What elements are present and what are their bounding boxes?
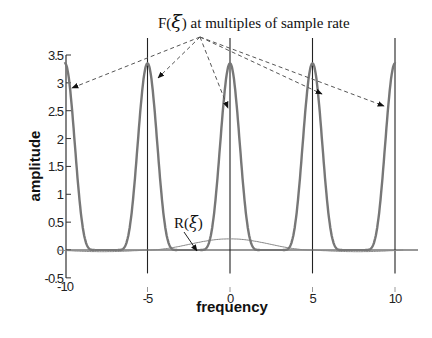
x-tick-label: -10: [57, 279, 74, 294]
y-tick-label: 2: [57, 132, 64, 147]
x-tick-label: 5: [309, 291, 316, 306]
r-xi-annotation: R(ξ): [174, 213, 203, 232]
f-xi-arrow: [200, 37, 228, 108]
f-replica-curve: [365, 63, 395, 250]
x-tick-label: 10: [389, 291, 402, 306]
y-tick-label: 2.5: [48, 104, 64, 119]
x-tick-label: -5: [143, 291, 153, 306]
y-tick-label: 3: [57, 76, 64, 91]
x-axis-label: frequency: [196, 298, 268, 315]
f-xi-arrow: [72, 37, 200, 88]
y-tick-label: 1: [57, 187, 64, 202]
y-tick-label: 1.5: [48, 159, 64, 174]
r-xi-arrow: [184, 232, 197, 251]
y-tick-label: 3.5: [48, 48, 64, 63]
y-tick-label: 0.5: [48, 215, 64, 230]
f-xi-annotation: F(ξ) at multiples of sample rate: [158, 10, 350, 32]
f-xi-arrow: [200, 37, 322, 94]
amplitude-frequency-chart: -0.500.511.522.533.5 -10-50510 amplitude…: [0, 0, 432, 338]
f-xi-arrow: [158, 37, 200, 78]
sample-rate-lines: [148, 38, 396, 273]
y-axis-label: amplitude: [26, 131, 43, 202]
